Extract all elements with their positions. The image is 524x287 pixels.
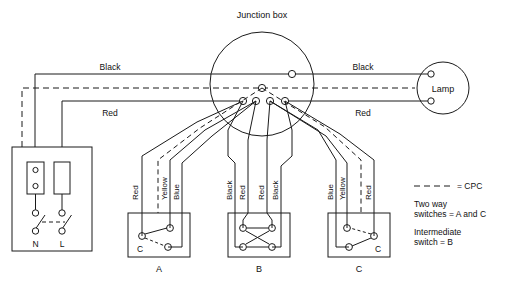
neutral-terminal-block	[27, 162, 44, 194]
switch-a-blade	[145, 228, 167, 234]
live-fuse-block	[54, 162, 70, 194]
switch-c-common-label: C	[375, 244, 381, 254]
label-switch-c-wire-blue: Blue	[326, 183, 335, 200]
switch-c-blade	[352, 238, 371, 246]
legend-intermediate-line1: Intermediate	[414, 227, 462, 237]
switch-a-caption: A	[156, 264, 162, 274]
switch-a-alt-blade	[145, 238, 165, 246]
label-switch-a-wire-yellow: Yellow	[160, 177, 169, 200]
label-switch-a-wire-red: Red	[131, 185, 140, 200]
cable-jb-to-b-black-right	[281, 101, 292, 213]
switch-a-common-label: C	[137, 244, 143, 254]
label-switch-b-wire-black-left: Black	[225, 179, 234, 200]
neutral-block-terminal-bottom	[33, 183, 38, 188]
legend-intermediate-line2: switch = B	[414, 237, 453, 247]
lamp-label: Lamp	[432, 84, 455, 94]
label-neutral: N	[32, 239, 38, 249]
label-switch-c-wire-yellow: Yellow	[338, 177, 347, 200]
wiring-diagram: Junction box Lamp Black Red Black Red N …	[0, 0, 524, 287]
black-conductor-left	[35, 74, 292, 147]
label-black-left: Black	[100, 62, 122, 72]
lamp-terminal-bottom	[428, 98, 434, 104]
cable-jb-to-b-red-left	[248, 101, 256, 213]
neutral-switch-contact-top	[32, 210, 38, 216]
label-red-right: Red	[355, 108, 371, 118]
switch-c-alt-blade	[350, 228, 371, 234]
live-switch-contact-top	[59, 210, 65, 216]
cable-jb-to-c-yellow	[270, 101, 347, 213]
label-switch-b-wire-red-left: Red	[238, 185, 247, 200]
neutral-switch-contact-bottom	[32, 228, 38, 234]
label-switch-b-wire-red-right: Red	[257, 185, 266, 200]
switch-b-caption: B	[256, 264, 262, 274]
legend-cpc-label: = CPC	[457, 181, 482, 191]
switch-c-caption: C	[356, 264, 363, 274]
label-switch-c-wire-red: Red	[364, 185, 373, 200]
lamp-terminal-top	[428, 71, 434, 77]
label-red-left: Red	[102, 108, 118, 118]
legend-two-way-line2: switches = A and C	[414, 209, 486, 219]
label-live: L	[60, 239, 65, 249]
legend-two-way-line1: Two way	[414, 199, 448, 209]
cable-jb-to-b-red-right	[267, 101, 270, 213]
label-black-right: Black	[353, 62, 375, 72]
live-switch-contact-bottom	[59, 228, 65, 234]
label-switch-b-wire-black-right: Black	[271, 179, 280, 200]
consumer-unit-box	[12, 147, 92, 251]
junction-box-title: Junction box	[237, 10, 288, 20]
junction-terminal-black	[288, 70, 295, 77]
neutral-block-terminal-top	[33, 167, 38, 172]
label-switch-a-wire-blue: Blue	[172, 183, 181, 200]
